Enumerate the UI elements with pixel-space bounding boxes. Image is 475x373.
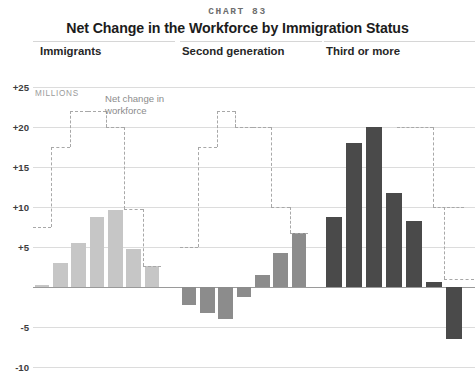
panel-title-1: Immigrants xyxy=(40,45,101,57)
net-change-step-segment xyxy=(124,209,142,210)
panel-title-2: Second generation xyxy=(182,45,285,57)
gridline xyxy=(33,207,475,208)
y-axis-tick-label: +25 xyxy=(0,82,29,93)
y-axis-tick-label: +10 xyxy=(0,202,29,213)
net-change-step-riser xyxy=(217,111,218,147)
bar xyxy=(108,210,123,287)
net-change-step-segment xyxy=(143,266,161,267)
y-axis-tick-label: +15 xyxy=(0,162,29,173)
bar xyxy=(346,143,362,287)
bar xyxy=(237,287,252,297)
y-axis-tick-label: -5 xyxy=(0,322,29,333)
net-change-step-segment xyxy=(88,111,106,112)
y-axis-tick-label: +20 xyxy=(0,122,29,133)
net-change-step-segment xyxy=(397,127,433,128)
net-change-step-riser xyxy=(124,127,125,209)
bar xyxy=(255,275,270,287)
net-change-step-riser xyxy=(198,147,199,247)
chart-number: CHART 83 xyxy=(0,6,475,17)
bar xyxy=(90,217,105,287)
annotation-line-2: workforce xyxy=(105,105,164,117)
net-change-step-segment xyxy=(106,127,124,128)
annotation-line-1: Net change in xyxy=(105,93,164,105)
net-change-step-riser xyxy=(444,207,445,279)
gridline xyxy=(33,87,475,88)
bar xyxy=(126,249,141,287)
bar xyxy=(426,282,442,287)
bar xyxy=(53,263,68,287)
net-change-step-segment xyxy=(180,247,198,248)
y-axis-tick-label: -10 xyxy=(0,362,29,373)
net-change-step-segment xyxy=(198,147,216,148)
net-change-step-segment xyxy=(33,227,51,228)
net-change-step-segment xyxy=(253,127,271,128)
net-change-step-segment xyxy=(70,111,88,112)
net-change-step-segment xyxy=(235,127,253,128)
panel-divider-rule xyxy=(324,41,475,42)
panel-divider-rule xyxy=(180,41,322,42)
bar xyxy=(366,127,382,287)
net-change-step-riser xyxy=(51,147,52,227)
net-change-step-riser xyxy=(235,111,236,127)
bar xyxy=(218,287,233,319)
bar xyxy=(406,221,422,287)
bar xyxy=(386,193,402,287)
bar xyxy=(145,266,160,287)
bar xyxy=(446,287,462,339)
net-change-step-riser xyxy=(70,111,71,147)
bar xyxy=(182,287,197,305)
net-change-step-segment xyxy=(271,207,289,208)
gridline xyxy=(33,167,475,168)
bar xyxy=(71,243,86,287)
y-axis-tick-label: +5 xyxy=(0,242,29,253)
zero-baseline xyxy=(33,287,475,288)
net-change-step-riser xyxy=(433,127,434,207)
net-change-step-segment xyxy=(51,147,69,148)
panel-title-3: Third or more xyxy=(326,45,400,57)
page-title: Net Change in the Workforce by Immigrati… xyxy=(0,20,475,36)
bar xyxy=(273,253,288,287)
net-change-step-riser xyxy=(143,209,144,267)
bar xyxy=(292,233,307,287)
net-change-step-segment xyxy=(433,207,464,208)
net-change-step-riser xyxy=(271,127,272,207)
net-change-step-segment xyxy=(217,111,235,112)
bar xyxy=(326,217,342,287)
bar xyxy=(35,285,50,287)
net-change-step-riser xyxy=(290,207,291,233)
net-change-annotation: Net change inworkforce xyxy=(105,93,164,116)
bar xyxy=(200,287,215,313)
net-change-step-segment xyxy=(444,279,474,280)
gridline xyxy=(33,327,475,328)
panel-divider-rule xyxy=(33,41,175,42)
chart-plot-area: +25+20+15+10+5-5-10MILLIONSImmigrantsSec… xyxy=(0,41,475,373)
y-axis-units-label: MILLIONS xyxy=(35,89,79,98)
net-change-step-segment xyxy=(290,233,308,234)
gridline xyxy=(33,367,475,368)
